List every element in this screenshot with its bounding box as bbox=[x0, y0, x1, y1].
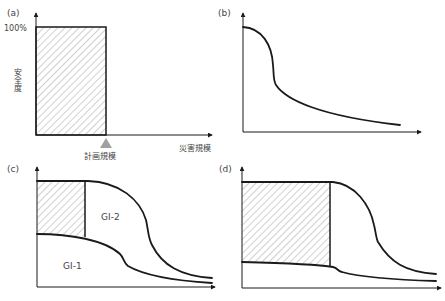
panel-b: (b) bbox=[218, 8, 421, 132]
panel-c: (c) GI-2 GI-1 bbox=[7, 164, 215, 287]
x-axis-label: 災害規模 bbox=[179, 143, 211, 153]
panel-d-label: (d) bbox=[219, 164, 232, 174]
region-label-gi1: GI-1 bbox=[63, 261, 82, 271]
hatched-region-c bbox=[37, 181, 85, 237]
planned-scale-label: 計画規模 bbox=[84, 151, 116, 161]
panel-c-label: (c) bbox=[7, 164, 19, 174]
y-axis-label: 安全度 bbox=[13, 67, 22, 93]
hatched-region-d bbox=[242, 182, 330, 267]
region-label-gi2: GI-2 bbox=[101, 212, 120, 222]
panel-b-label: (b) bbox=[218, 8, 231, 18]
lower-curve-d bbox=[242, 262, 436, 281]
panel-d: (d) bbox=[219, 164, 441, 288]
diagram-canvas: (a) 100% 安全度 計画規模 災害規模 (b) (c) GI-2 GI-1… bbox=[0, 0, 445, 301]
safety-curve-b bbox=[243, 27, 400, 125]
panel-a-label: (a) bbox=[7, 8, 20, 18]
panel-a: (a) 100% 安全度 計画規模 災害規模 bbox=[4, 8, 212, 161]
planned-safety-region bbox=[36, 27, 106, 135]
curve-gi1 bbox=[37, 234, 212, 283]
planned-scale-marker-icon bbox=[100, 138, 112, 148]
y-tick-100-percent: 100% bbox=[4, 24, 27, 33]
